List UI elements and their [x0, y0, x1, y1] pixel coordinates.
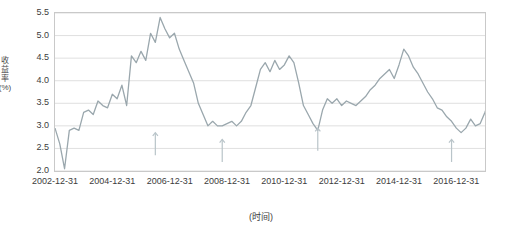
series-line: [55, 18, 485, 169]
x-tick-label: 2002-12-31: [32, 176, 78, 186]
annotation-arrow-icon: [315, 128, 320, 151]
chart-container: 收益率(%) 2.02.53.03.54.04.55.05.5 2002-12-…: [0, 0, 522, 229]
y-tick-label: 5.0: [9, 30, 49, 40]
plot-area: [54, 12, 486, 172]
y-tick-label: 2.5: [9, 142, 49, 152]
x-tick-label: 2016-12-31: [433, 176, 479, 186]
x-axis-label: (时间): [0, 210, 522, 223]
y-tick-label: 3.5: [9, 97, 49, 107]
y-tick-label: 3.0: [9, 120, 49, 130]
annotation-arrow-icon: [153, 133, 158, 156]
series-plot: [55, 13, 485, 171]
x-tick-label: 2010-12-31: [261, 176, 307, 186]
x-tick-label: 2012-12-31: [319, 176, 365, 186]
x-tick-label: 2004-12-31: [89, 176, 135, 186]
y-tick-label: 4.5: [9, 52, 49, 62]
annotation-arrow-icon: [220, 139, 225, 162]
x-tick-label: 2014-12-31: [376, 176, 422, 186]
annotation-arrow-icon: [449, 139, 454, 162]
x-tick-label: 2006-12-31: [147, 176, 193, 186]
y-tick-label: 2.0: [9, 165, 49, 175]
x-tick-label: 2008-12-31: [204, 176, 250, 186]
y-tick-label: 5.5: [9, 7, 49, 17]
y-tick-label: 4.0: [9, 75, 49, 85]
